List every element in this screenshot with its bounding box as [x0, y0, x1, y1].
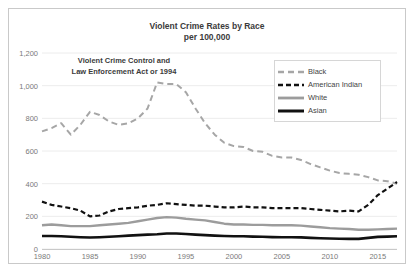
legend-item-asian[interactable]: Asian	[278, 104, 376, 117]
x-axis-tick-label: 2010	[321, 252, 338, 261]
y-axis-tick-label: 800	[25, 114, 38, 123]
y-axis-tick-label: 200	[25, 212, 38, 221]
legend-label: Asian	[308, 106, 327, 115]
policy-annotation-line1: Violent Crime Control and	[49, 55, 199, 66]
legend-item-american-indian[interactable]: American Indian	[278, 78, 376, 91]
x-axis-tick-label: 1980	[34, 252, 51, 261]
legend-label: Black	[308, 67, 326, 76]
x-axis-labels: 19801985199019952000200520102015	[42, 252, 397, 266]
y-axis-labels: 02004006008001,0001,200	[9, 53, 38, 249]
policy-annotation-line2: Law Enforcement Act or 1994	[49, 66, 199, 77]
chart-frame: Violent Crime Rates by Race per 100,000 …	[8, 8, 406, 264]
chart-title: Violent Crime Rates by Race per 100,000	[9, 21, 405, 43]
y-axis-tick-label: 1,000	[19, 81, 38, 90]
legend-item-black[interactable]: Black	[278, 65, 376, 78]
chart-legend: BlackAmerican IndianWhiteAsian	[274, 60, 381, 122]
series-line-white	[42, 217, 397, 230]
series-line-asian	[42, 233, 397, 238]
x-axis-tick-label: 2005	[274, 252, 291, 261]
policy-annotation: Violent Crime Control and Law Enforcemen…	[49, 55, 199, 77]
legend-label: White	[308, 93, 327, 102]
chart-subtitle: per 100,000	[9, 32, 405, 43]
legend-swatch-icon	[278, 93, 304, 103]
x-axis-tick-label: 2015	[369, 252, 386, 261]
legend-swatch-icon	[278, 67, 304, 77]
y-axis-tick-label: 1,200	[19, 49, 38, 58]
legend-swatch-icon	[278, 106, 304, 116]
legend-item-white[interactable]: White	[278, 91, 376, 104]
series-line-american-indian	[42, 182, 397, 216]
x-axis-tick-label: 1995	[178, 252, 195, 261]
x-axis-tick-label: 1985	[82, 252, 99, 261]
legend-label: American Indian	[308, 80, 362, 89]
legend-swatch-icon	[278, 80, 304, 90]
y-axis-tick-label: 400	[25, 179, 38, 188]
x-axis-tick-label: 2000	[226, 252, 243, 261]
x-axis-tick-label: 1990	[130, 252, 147, 261]
x-axis-line	[42, 249, 397, 250]
y-axis-tick-label: 600	[25, 147, 38, 156]
chart-title-line1: Violent Crime Rates by Race	[9, 21, 405, 32]
